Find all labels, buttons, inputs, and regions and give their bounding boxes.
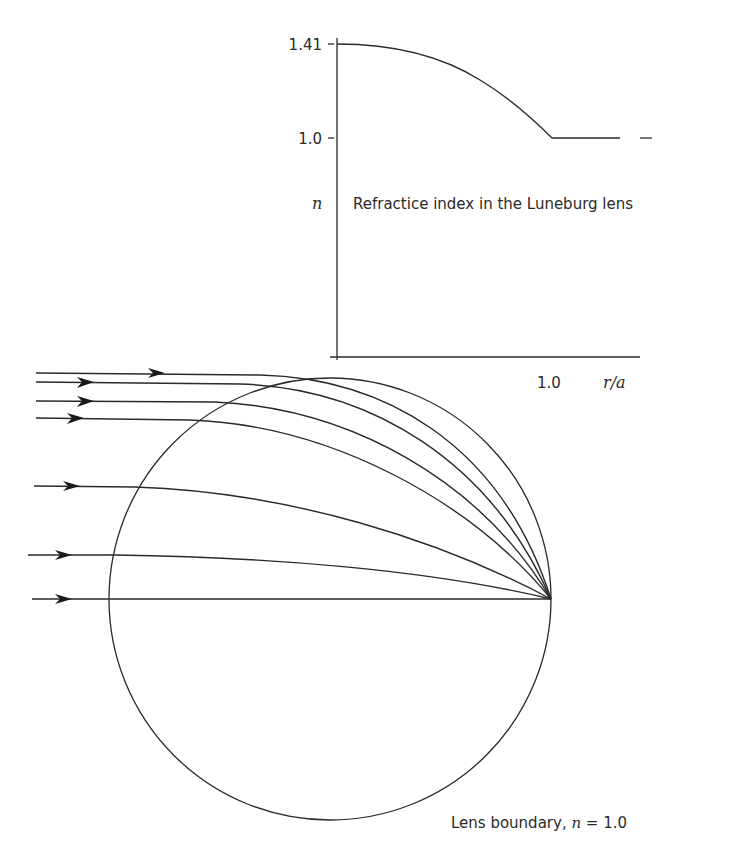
x-axis-label: r/a [603, 373, 626, 392]
lens-boundary-label: Lens boundary, n = 1.0 [451, 814, 627, 832]
ray-5 [34, 486, 551, 599]
rays [28, 368, 551, 604]
refractive-index-graph: 1.41 1.0 n Refractice index in the Luneb… [289, 36, 652, 392]
ray-2 [36, 382, 551, 599]
index-curve [337, 44, 620, 138]
graph-title: Refractice index in the Luneburg lens [353, 195, 633, 213]
y-axis-label: n [312, 194, 322, 213]
ray-4 [36, 418, 551, 599]
x-tick-label-1.0: 1.0 [537, 374, 561, 392]
arrow-icon [148, 368, 165, 378]
y-tick-label-1.41: 1.41 [289, 36, 322, 54]
luneburg-lens-diagram: 1.41 1.0 n Refractice index in the Luneb… [0, 0, 731, 863]
ray-1 [36, 373, 551, 599]
y-tick-label-1.0: 1.0 [298, 130, 322, 148]
